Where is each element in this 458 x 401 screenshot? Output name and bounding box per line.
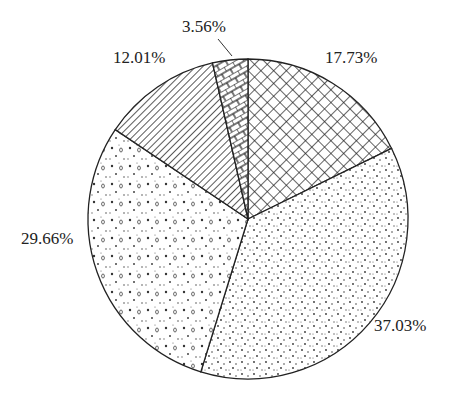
slice-label-12-01: 12.01% <box>113 48 165 68</box>
slice-label-29-66: 29.66% <box>21 229 73 249</box>
pie-chart <box>0 0 458 401</box>
slice-label-3-56: 3.56% <box>182 17 226 37</box>
slice-label-37-03: 37.03% <box>374 316 426 336</box>
leader-line <box>218 39 232 56</box>
slice-label-17-73: 17.73% <box>325 48 377 68</box>
